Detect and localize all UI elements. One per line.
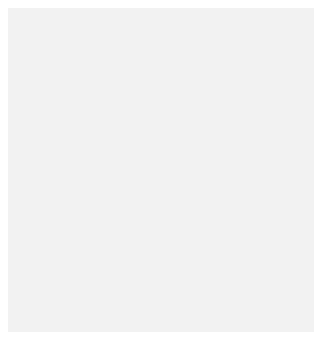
chart-panel [8, 8, 314, 332]
rent-ceiling-chart [0, 0, 322, 340]
